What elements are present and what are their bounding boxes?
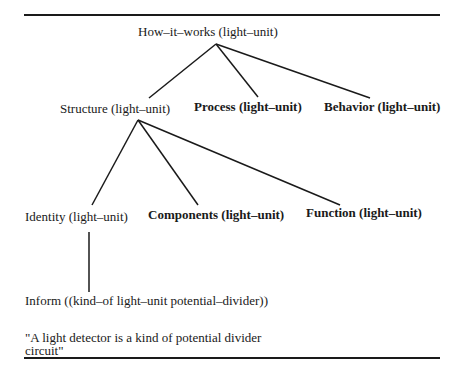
tree-edges [0,0,461,368]
node-function: Function (light–unit) [306,205,422,220]
node-behavior: Behavior (light–unit) [324,99,440,114]
gloss-text: "A light detector is a kind of potential… [25,331,275,357]
node-structure: Structure (light–unit) [60,101,170,116]
edge-root-behavior [216,44,370,98]
node-components: Components (light–unit) [148,207,284,222]
node-how-it-works: How–it–works (light–unit) [138,24,278,39]
node-process: Process (light–unit) [194,99,302,114]
node-identity: Identity (light–unit) [25,209,128,224]
edge-root-structure [149,44,216,98]
bottom-rule [24,357,440,359]
node-inform: Inform ((kind–of light–unit potential–di… [25,293,268,308]
edge-structure-identity [92,120,138,205]
